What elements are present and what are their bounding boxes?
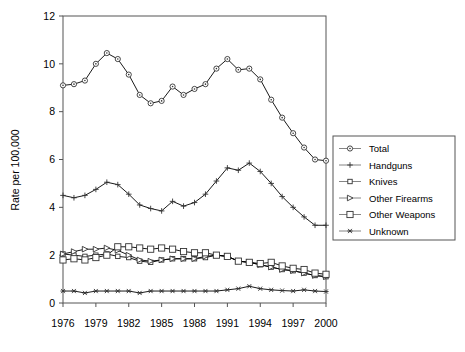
data-point xyxy=(257,260,263,266)
y-tick-label: 10 xyxy=(43,58,55,70)
legend-label: Handguns xyxy=(369,160,413,171)
data-point xyxy=(161,100,163,102)
data-point xyxy=(312,270,318,276)
data-point xyxy=(106,52,108,54)
y-tick-label: 0 xyxy=(49,297,55,309)
y-tick-label: 8 xyxy=(49,105,55,117)
data-point xyxy=(213,252,219,258)
legend-marker xyxy=(347,211,353,217)
data-point xyxy=(281,117,283,119)
data-point xyxy=(216,68,218,70)
data-point xyxy=(191,250,197,256)
data-point xyxy=(235,258,241,264)
line-chart: 024681012 197619791982198519881991199419… xyxy=(0,0,465,352)
data-point xyxy=(246,259,252,265)
data-point xyxy=(290,265,296,271)
data-point xyxy=(325,160,327,162)
data-point xyxy=(268,259,274,265)
data-point xyxy=(279,263,285,269)
x-tick-label: 1982 xyxy=(117,317,141,329)
legend-label: Unknown xyxy=(369,226,409,237)
data-point xyxy=(60,257,66,263)
y-tick-label: 2 xyxy=(49,249,55,261)
y-tick-label: 6 xyxy=(49,153,55,165)
data-point xyxy=(62,85,64,87)
data-point xyxy=(172,86,174,88)
x-tick-label: 1979 xyxy=(84,317,108,329)
y-tick-label: 12 xyxy=(43,10,55,22)
legend-box xyxy=(333,136,455,240)
data-point xyxy=(248,68,250,70)
data-point xyxy=(159,245,165,251)
x-tick-label: 1997 xyxy=(281,317,305,329)
data-point xyxy=(126,244,132,250)
chart-container: 024681012 197619791982198519881991199419… xyxy=(0,0,465,352)
legend-marker xyxy=(348,179,352,183)
data-point xyxy=(238,69,240,71)
data-point xyxy=(183,94,185,96)
legend-label: Total xyxy=(369,143,389,154)
data-point xyxy=(169,246,175,252)
data-point xyxy=(303,147,305,149)
legend-label: Other Weapons xyxy=(369,209,436,220)
data-point xyxy=(224,253,230,259)
data-point xyxy=(84,80,86,82)
legend-label: Knives xyxy=(369,176,398,187)
data-point xyxy=(95,63,97,65)
data-point xyxy=(139,94,141,96)
data-point xyxy=(323,271,329,277)
data-point xyxy=(116,254,120,258)
data-point xyxy=(314,159,316,161)
legend-label: Other Firearms xyxy=(369,193,433,204)
data-point xyxy=(270,99,272,101)
x-tick-label: 1985 xyxy=(150,317,174,329)
data-point xyxy=(194,88,196,90)
x-tick-label: 1988 xyxy=(183,317,207,329)
x-tick-label: 1976 xyxy=(51,317,75,329)
data-point xyxy=(73,83,75,85)
x-tick-label: 2000 xyxy=(314,317,338,329)
x-tick-label: 1991 xyxy=(216,317,240,329)
data-point xyxy=(148,246,154,252)
data-point xyxy=(202,250,208,256)
y-tick-label: 4 xyxy=(49,201,55,213)
y-axis-title: Rate per 100,000 xyxy=(9,129,21,210)
data-point xyxy=(259,79,261,81)
data-point xyxy=(180,248,186,254)
data-point xyxy=(292,132,294,134)
data-point xyxy=(71,256,77,262)
data-point xyxy=(104,252,110,258)
data-point xyxy=(137,245,143,251)
data-point xyxy=(227,58,229,60)
data-point xyxy=(128,74,130,76)
data-point xyxy=(117,58,119,60)
x-tick-label: 1994 xyxy=(249,317,273,329)
data-point xyxy=(205,83,207,85)
data-point xyxy=(82,257,88,263)
data-point xyxy=(93,254,99,260)
chart-legend: TotalHandgunsKnivesOther FirearmsOther W… xyxy=(333,136,455,240)
data-point xyxy=(115,244,121,250)
legend-marker xyxy=(349,148,351,150)
data-point xyxy=(150,102,152,104)
data-point xyxy=(301,266,307,272)
